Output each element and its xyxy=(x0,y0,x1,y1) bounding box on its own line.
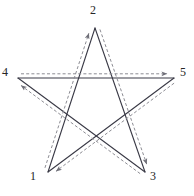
edge-3-4 xyxy=(18,78,145,172)
edge-1-2 xyxy=(48,28,95,172)
arrow-1-to-2 xyxy=(45,33,89,167)
arrow-5-to-1 xyxy=(56,83,174,171)
vertex-label-4: 4 xyxy=(2,66,8,78)
vertex-label-2: 2 xyxy=(90,4,96,16)
dashed-traversal-path xyxy=(21,29,174,173)
edge-5-1 xyxy=(48,78,174,172)
solid-star-outline xyxy=(18,28,174,172)
arrow-3-to-4 xyxy=(21,86,140,174)
vertex-label-3: 3 xyxy=(150,170,156,182)
star-diagram-svg xyxy=(0,0,194,196)
pentagram-figure: 12345 xyxy=(0,0,194,196)
vertex-label-1: 1 xyxy=(30,170,36,182)
edge-2-3 xyxy=(95,28,145,172)
vertex-label-5: 5 xyxy=(180,66,186,78)
